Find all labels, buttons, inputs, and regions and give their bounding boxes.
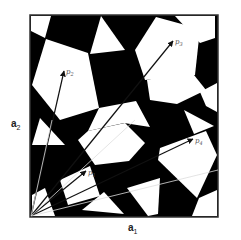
tiling-figure: p2 p3 p1 p4: [0, 0, 241, 240]
axis-label-a2: a2: [11, 118, 20, 131]
axis-label-a1: a1: [128, 222, 137, 235]
